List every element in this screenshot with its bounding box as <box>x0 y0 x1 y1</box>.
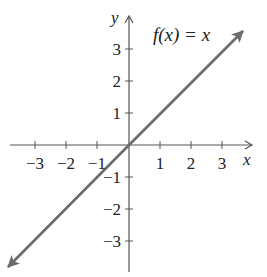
y-tick-label: −1 <box>103 168 121 187</box>
x-tick-label: 1 <box>156 154 165 173</box>
y-tick-label: 3 <box>113 40 122 59</box>
x-tick-label: −3 <box>26 154 44 173</box>
function-line <box>129 31 243 145</box>
x-axis-label: x <box>242 150 251 169</box>
x-tick-label: 3 <box>218 154 227 173</box>
x-tick-label: −2 <box>57 154 75 173</box>
y-tick-label: 1 <box>113 104 122 123</box>
y-tick-label: −2 <box>103 200 121 219</box>
y-tick-label: −3 <box>103 232 121 251</box>
x-tick-label: 2 <box>187 154 196 173</box>
y-axis-label: y <box>109 8 119 27</box>
plot-canvas: −3 −2 −1 1 2 3 3 2 1 −1 −2 −3 x y f(x) =… <box>0 0 267 277</box>
y-tick-label: 2 <box>113 72 122 91</box>
function-label: f(x) = x <box>153 24 211 46</box>
function-graph: −3 −2 −1 1 2 3 3 2 1 −1 −2 −3 x y f(x) =… <box>0 0 267 277</box>
